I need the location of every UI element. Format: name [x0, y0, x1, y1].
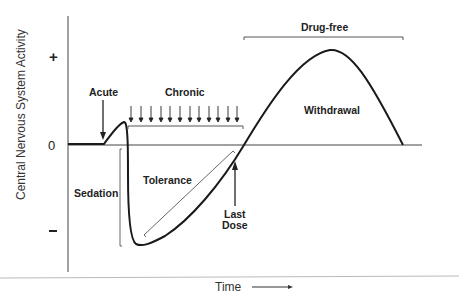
- y-tick-minus: [49, 230, 57, 232]
- y-axis-label: Central Nervous System Activity: [14, 29, 28, 200]
- cns-activity-diagram: + 0 Central Nervous System Activity Time…: [0, 0, 459, 299]
- x-axis-label: Time: [215, 280, 242, 294]
- time-arrowhead-icon: [288, 285, 293, 289]
- chronic-bracket: [128, 126, 243, 129]
- last-dose-label-line2: Dose: [222, 219, 248, 231]
- sedation-bracket: [120, 149, 122, 246]
- drug-free-label: Drug-free: [301, 21, 348, 33]
- chronic-label: Chronic: [165, 86, 205, 98]
- drug-free-bracket: [244, 37, 403, 40]
- chronic-dose-arrows: [129, 106, 239, 122]
- y-tick-plus: +: [49, 48, 58, 65]
- acute-arrowhead-icon: [100, 132, 106, 140]
- sedation-label: Sedation: [74, 187, 118, 199]
- withdrawal-label: Withdrawal: [304, 104, 360, 116]
- tolerance-label: Tolerance: [143, 174, 192, 186]
- bottom-rule: [0, 276, 459, 278]
- acute-label: Acute: [89, 86, 118, 98]
- y-tick-zero: 0: [48, 138, 55, 153]
